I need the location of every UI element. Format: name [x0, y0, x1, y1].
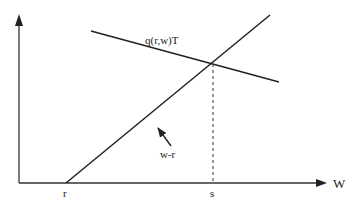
diagram-canvas: W q(r,w)T w-r r s	[0, 0, 357, 211]
x-axis-label: W	[333, 176, 346, 191]
q-function-label: q(r,w)T	[145, 34, 179, 47]
wr-pointer-arrow-icon	[158, 128, 171, 146]
wr-label: w-r	[160, 148, 176, 160]
y-axis-arrow-icon	[15, 14, 23, 26]
tick-label-s: s	[210, 187, 214, 199]
tick-label-r: r	[63, 187, 67, 199]
x-axis-arrow-icon	[316, 179, 327, 187]
q-function-line	[91, 31, 279, 82]
